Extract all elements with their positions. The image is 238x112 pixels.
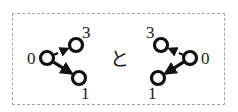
right-node-label-0: 0 — [201, 50, 210, 67]
left-node-label-3: 3 — [82, 24, 91, 41]
right-node-label-3: 3 — [146, 24, 155, 41]
node-0 — [184, 52, 197, 65]
node-3 — [155, 39, 168, 52]
node-0 — [41, 52, 54, 65]
figure-root: 0 3 1 と 0 3 1 — [0, 0, 238, 112]
left-node-label-0: 0 — [27, 50, 36, 67]
left-graph — [41, 39, 86, 85]
left-node-label-1: 1 — [81, 85, 90, 102]
edge-0-to-3 — [54, 49, 68, 55]
right-node-label-1: 1 — [148, 85, 157, 102]
node-1 — [73, 72, 86, 85]
edge-0-to-1 — [54, 62, 72, 73]
right-graph — [152, 39, 197, 85]
edge-0-to-3 — [169, 49, 183, 55]
edge-0-to-1 — [166, 62, 184, 73]
node-3 — [70, 39, 83, 52]
conjunction-character: と — [110, 50, 129, 69]
node-1 — [152, 72, 165, 85]
